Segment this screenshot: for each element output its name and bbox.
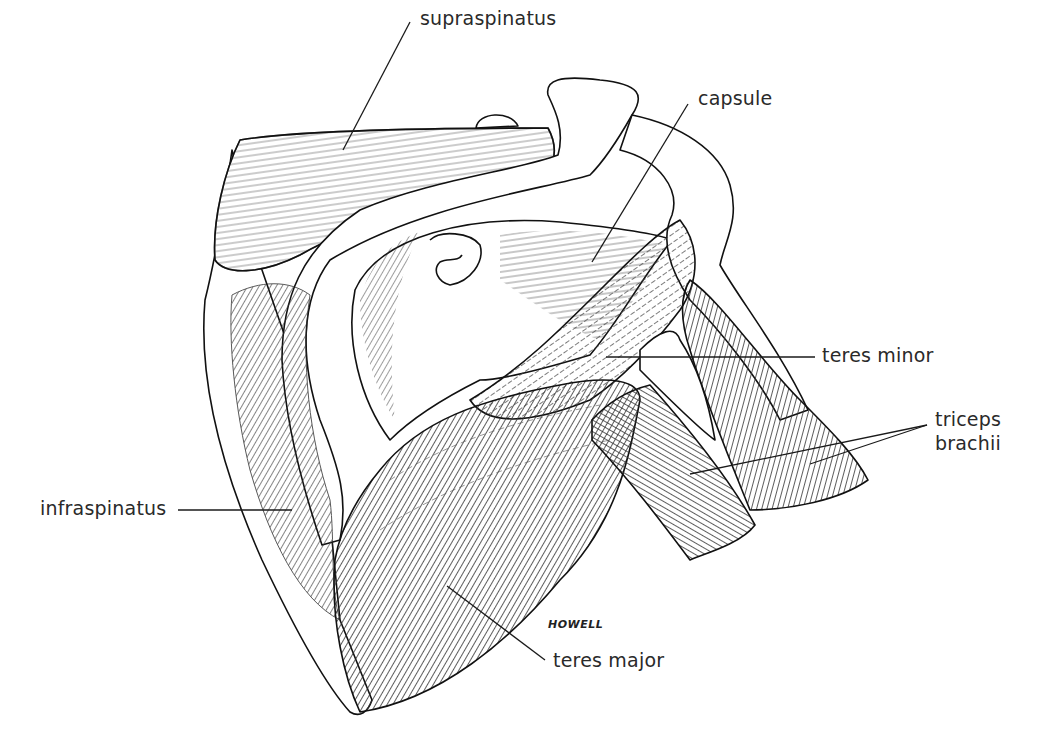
label-teres-minor: teres minor	[822, 343, 934, 367]
label-capsule: capsule	[698, 86, 772, 110]
shoulder-anatomy-illustration	[0, 0, 1039, 750]
label-supraspinatus: supraspinatus	[420, 6, 556, 30]
label-triceps-brachii: triceps brachii	[935, 407, 1001, 455]
artist-signature: HOWELL	[548, 618, 603, 631]
label-teres-major: teres major	[553, 648, 664, 672]
bursa	[476, 115, 518, 128]
label-infraspinatus: infraspinatus	[40, 496, 166, 520]
